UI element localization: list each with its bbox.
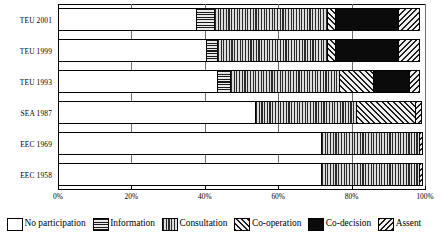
legend-swatch-icon [234, 218, 250, 231]
bar-row-eec-1958 [58, 163, 425, 186]
legend-label: No participation [25, 219, 86, 228]
bar-segment-no-participation [58, 39, 207, 62]
bar-segment-no-participation [58, 132, 322, 155]
legend-swatch-icon [378, 218, 394, 231]
x-tick-label-80: 80% [345, 192, 359, 201]
legend-swatch-icon [7, 218, 23, 231]
legend-item-co-operation[interactable]: Co-operation [234, 218, 301, 231]
bar-segment-assent [419, 163, 423, 186]
y-axis-label-eec-1958: EEC 1958 [20, 170, 52, 179]
bar-segment-consultation [255, 101, 357, 124]
bar-segment-co-decision [335, 39, 399, 62]
legend-item-consultation[interactable]: Consultation [162, 218, 227, 231]
bar-segment-assent [409, 70, 420, 93]
bar-segment-co-operation [356, 101, 416, 124]
bar-segment-consultation [230, 70, 340, 93]
x-tick-label-20: 20% [125, 192, 139, 201]
x-tick-mark-0 [58, 186, 59, 190]
x-tick-mark-100 [425, 186, 426, 190]
bar-row-teu-2001 [58, 8, 425, 31]
bar-segment-no-participation [58, 163, 322, 186]
legend-item-no-participation[interactable]: No participation [7, 218, 86, 231]
plot-area [58, 4, 425, 190]
bar-row-eec-1969 [58, 132, 425, 155]
y-axis-label-teu-1993: TEU 1993 [20, 77, 52, 86]
y-axis-label-teu-2001: TEU 2001 [20, 15, 52, 24]
legend-swatch-icon [308, 218, 324, 231]
gridline-100 [425, 4, 426, 190]
legend-label: Information [110, 219, 155, 228]
bar-segment-assent [415, 101, 422, 124]
bar-rows [58, 4, 425, 190]
x-tick-mark-80 [352, 186, 353, 190]
bar-segment-consultation [214, 8, 328, 31]
bar-segment-assent [398, 8, 420, 31]
bar-segment-consultation [321, 163, 420, 186]
legend-swatch-icon [93, 218, 109, 231]
bar-segment-co-decision [335, 8, 399, 31]
legend-label: Assent [396, 219, 422, 228]
bar-segment-information [196, 8, 214, 31]
bar-row-teu-1999 [58, 39, 425, 62]
bar-segment-co-operation [339, 70, 374, 93]
y-axis-label-teu-1999: TEU 1999 [20, 46, 52, 55]
bar-segment-consultation [217, 39, 327, 62]
stacked-bar-chart: TEU 2001TEU 1999TEU 1993SEA 1987EEC 1969… [0, 0, 442, 242]
bar-segment-no-participation [58, 70, 218, 93]
legend-label: Co-operation [252, 219, 301, 228]
bar-segment-assent [419, 132, 423, 155]
y-axis-label-sea-1987: SEA 1987 [21, 108, 52, 117]
bar-segment-information [217, 70, 232, 93]
legend-item-information[interactable]: Information [93, 218, 155, 231]
bar-segment-assent [398, 39, 420, 62]
bar-segment-consultation [321, 132, 420, 155]
x-tick-mark-40 [205, 186, 206, 190]
x-tick-label-60: 60% [271, 192, 285, 201]
bar-segment-no-participation [58, 101, 256, 124]
x-tick-mark-20 [131, 186, 132, 190]
chart-legend: No participationInformationConsultationC… [7, 213, 437, 235]
legend-item-assent[interactable]: Assent [378, 218, 421, 231]
bar-segment-no-participation [58, 8, 197, 31]
x-tick-label-0: 0% [53, 192, 63, 201]
legend-label: Consultation [179, 219, 227, 228]
bar-row-sea-1987 [58, 101, 425, 124]
legend-item-co-decision[interactable]: Co-decision [308, 218, 371, 231]
legend-label: Co-decision [326, 219, 371, 228]
x-axis-ticks: 0%20%40%60%80%100% [58, 190, 425, 206]
x-tick-label-100: 100% [416, 192, 433, 201]
x-tick-label-40: 40% [198, 192, 212, 201]
y-axis-label-eec-1969: EEC 1969 [20, 139, 52, 148]
legend-swatch-icon [162, 218, 178, 231]
bar-row-teu-1993 [58, 70, 425, 93]
x-tick-mark-60 [278, 186, 279, 190]
bar-segment-co-decision [373, 70, 410, 93]
y-axis-category-labels: TEU 2001TEU 1999TEU 1993SEA 1987EEC 1969… [0, 4, 56, 190]
